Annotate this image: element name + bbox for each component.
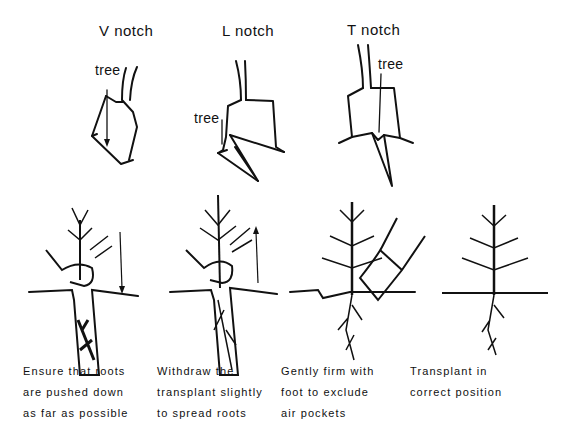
step3-line2: foot to exclude xyxy=(281,382,374,403)
l-notch-spade-icon xyxy=(218,61,284,181)
step4-line2: correct position xyxy=(410,382,502,403)
step3-line1: Gently firm with xyxy=(281,361,374,382)
step3-line3: air pockets xyxy=(281,403,374,424)
step2-planting-icon xyxy=(170,195,277,375)
step2-line3: to spread roots xyxy=(157,403,263,424)
step1-line2: are pushed down xyxy=(23,382,128,403)
t-notch-spade-icon xyxy=(339,45,413,186)
step1-line1: Ensure that roots xyxy=(23,361,128,382)
step2-caption: Withdraw the transplant slightly to spre… xyxy=(157,361,263,424)
step4-planting-icon xyxy=(442,205,548,355)
step4-line1: Transplant in xyxy=(410,361,502,382)
step1-line3: as far as possible xyxy=(23,403,128,424)
step1-planting-icon xyxy=(29,208,138,375)
step3-planting-icon xyxy=(290,202,425,360)
step4-caption: Transplant in correct position xyxy=(410,361,502,403)
step2-line1: Withdraw the xyxy=(157,361,263,382)
step2-line2: transplant slightly xyxy=(157,382,263,403)
v-notch-spade-icon xyxy=(92,67,137,164)
step1-caption: Ensure that roots are pushed down as far… xyxy=(23,361,128,424)
step3-caption: Gently firm with foot to exclude air poc… xyxy=(281,361,374,424)
